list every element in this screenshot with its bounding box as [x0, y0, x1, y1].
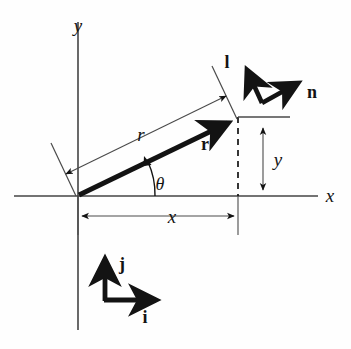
figure-container: y x r r θ x y l n j i: [0, 0, 351, 349]
axes-group: [14, 22, 318, 330]
length-r-label: r: [137, 124, 145, 145]
angle-theta-label: θ: [156, 174, 165, 194]
unit-vectors-group: [247, 70, 298, 103]
bold-arrow-l: [247, 70, 262, 103]
axis-x-label: x: [325, 185, 335, 206]
axis-y-label: y: [72, 15, 83, 36]
dimension-x-label: x: [167, 206, 177, 227]
dimension-x-group: [78, 196, 238, 235]
basis-j-label: j: [118, 254, 125, 274]
basis-vectors-group: [104, 259, 156, 301]
dimension-y-label: y: [272, 149, 283, 170]
unit-n-label: n: [307, 82, 317, 102]
vector-diagram: y x r r θ x y l n j i: [0, 0, 351, 349]
bold-arrow-n: [262, 83, 298, 103]
vector-r-label: r: [201, 134, 209, 154]
dimension-r-tick-start: [51, 143, 76, 196]
theta-arc: [148, 162, 155, 196]
unit-l-label: l: [224, 52, 229, 72]
basis-i-label: i: [142, 307, 147, 327]
dimension-r-tick-end: [212, 66, 237, 119]
